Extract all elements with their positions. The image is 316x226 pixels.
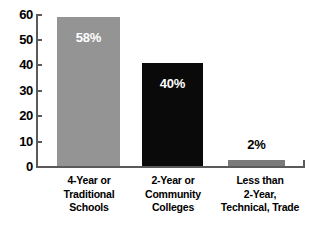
category-label-2-line-2: Community (130, 188, 216, 202)
x-axis-category-label-1: 4-Year or Traditional Schools (46, 174, 132, 215)
bar-4-year-traditional-schools[interactable]: 58% (57, 17, 120, 166)
category-label-2-line-1: 2-Year or (130, 174, 216, 188)
category-label-1-line-3: Schools (46, 201, 132, 215)
category-label-3-line-1: Less than (211, 174, 309, 188)
x-axis-category-label-2: 2-Year or Community Colleges (130, 174, 216, 215)
bar-chart: 60 50 40 30 20 10 0 58% 40% 2% 4-Year or… (0, 0, 316, 226)
bar-value-label-2: 40% (142, 77, 203, 90)
bar-value-label-1: 58% (57, 31, 120, 44)
category-label-1-line-2: Traditional (46, 188, 132, 202)
category-label-1-line-1: 4-Year or (46, 174, 132, 188)
category-label-3-line-2: 2-Year, (211, 188, 309, 202)
x-axis-category-label-3: Less than 2-Year, Technical, Trade (211, 174, 309, 215)
x-axis-end-tick (303, 160, 305, 167)
x-axis-line (36, 166, 305, 168)
category-label-3-line-3: Technical, Trade (211, 201, 309, 215)
category-label-2-line-3: Colleges (130, 201, 216, 215)
bar-value-label-3: 2% (228, 138, 285, 151)
bar-2-year-community-colleges[interactable]: 40% (142, 63, 203, 166)
